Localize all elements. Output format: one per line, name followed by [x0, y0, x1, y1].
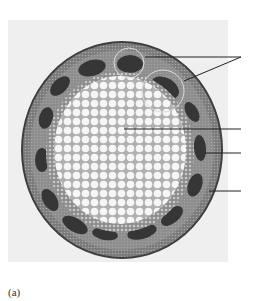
figure-caption: (a) [8, 286, 20, 298]
stem-cross-section-figure: (a) [0, 0, 258, 301]
micrograph [0, 0, 258, 301]
pith [54, 76, 186, 224]
